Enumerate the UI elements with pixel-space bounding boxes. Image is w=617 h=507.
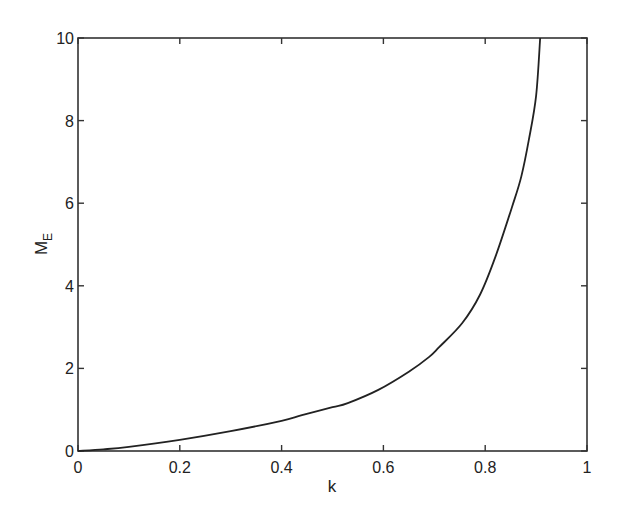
- y-axis-label-main: M: [32, 241, 51, 255]
- series-line: [78, 38, 540, 451]
- x-tick-label: 0: [74, 459, 83, 476]
- x-tick-label: 0.8: [474, 459, 496, 476]
- y-tick-label: 0: [65, 443, 74, 460]
- x-tick-label: 0.6: [372, 459, 394, 476]
- x-tick-label: 0.4: [270, 459, 292, 476]
- x-axis-label: k: [328, 477, 337, 496]
- y-tick-label: 8: [65, 113, 74, 130]
- y-axis-label-subscript: E: [41, 233, 55, 241]
- y-tick-label: 4: [65, 278, 74, 295]
- plot-frame: [78, 38, 587, 451]
- x-tick-label: 1: [583, 459, 592, 476]
- y-axis-ticks: 0246810: [56, 30, 587, 460]
- y-axis-label: ME: [32, 233, 55, 255]
- svg-text:ME: ME: [32, 233, 55, 255]
- x-axis-ticks: 00.20.40.60.81: [74, 38, 592, 476]
- y-tick-label: 6: [65, 195, 74, 212]
- y-tick-label: 2: [65, 360, 74, 377]
- chart: 00.20.40.60.81 0246810 k ME: [0, 0, 617, 507]
- series-layer: [78, 38, 540, 451]
- plot-area-border: [78, 38, 587, 451]
- y-tick-label: 10: [56, 30, 74, 47]
- x-tick-label: 0.2: [169, 459, 191, 476]
